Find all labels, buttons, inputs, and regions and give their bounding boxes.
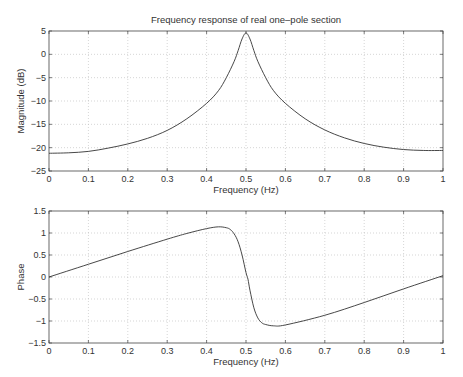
x-axis-label: Frequency (Hz) <box>213 184 278 195</box>
y-tick-label: −1 <box>36 316 46 326</box>
x-tick-label: 0.4 <box>200 174 213 184</box>
x-tick-label: 0.5 <box>240 346 253 356</box>
magnitude-curve <box>49 33 443 153</box>
x-tick-label: 1 <box>440 346 445 356</box>
x-tick-label: 0.2 <box>122 174 135 184</box>
y-tick-label: −25 <box>31 166 46 176</box>
x-tick-label: 0.6 <box>279 174 292 184</box>
y-tick-label: 1 <box>41 228 46 238</box>
y-tick-label: −5 <box>36 73 46 83</box>
chart-title: Frequency response of real one–pole sect… <box>151 14 341 25</box>
y-tick-label: 0.5 <box>33 250 46 260</box>
x-tick-label: 0.6 <box>279 346 292 356</box>
y-tick-label: −15 <box>31 119 46 129</box>
x-tick-label: 0.1 <box>82 174 95 184</box>
x-tick-label: 0.7 <box>319 174 332 184</box>
y-tick-label: −0.5 <box>28 294 46 304</box>
y-tick-label: 5 <box>41 26 46 36</box>
x-tick-label: 0.3 <box>161 346 174 356</box>
x-tick-label: 0.7 <box>319 346 332 356</box>
x-tick-label: 0.5 <box>240 174 253 184</box>
x-tick-label: 1 <box>440 174 445 184</box>
phase-plot: 00.10.20.30.40.50.60.70.80.911.510.50−0.… <box>15 206 446 367</box>
y-tick-label: 0 <box>41 49 46 59</box>
y-axis-label: Phase <box>15 264 26 291</box>
x-tick-label: 0.2 <box>122 346 135 356</box>
magnitude-plot: 00.10.20.30.40.50.60.70.80.9150−5−10−15−… <box>15 14 446 195</box>
x-tick-label: 0.1 <box>82 346 95 356</box>
y-tick-label: 1.5 <box>33 206 46 216</box>
y-tick-label: −20 <box>31 143 46 153</box>
x-tick-label: 0.9 <box>397 174 410 184</box>
x-tick-label: 0.8 <box>358 346 371 356</box>
x-tick-label: 0.9 <box>397 346 410 356</box>
x-tick-label: 0 <box>46 346 51 356</box>
x-tick-label: 0.3 <box>161 174 174 184</box>
x-tick-label: 0.8 <box>358 174 371 184</box>
y-axis-label: Magnitude (dB) <box>15 69 26 134</box>
x-tick-label: 0 <box>46 174 51 184</box>
figure: 00.10.20.30.40.50.60.70.80.9150−5−10−15−… <box>0 0 463 377</box>
y-tick-label: −1.5 <box>28 338 46 348</box>
x-axis-label: Frequency (Hz) <box>213 356 278 367</box>
x-tick-label: 0.4 <box>200 346 213 356</box>
y-tick-label: −10 <box>31 96 46 106</box>
y-tick-label: 0 <box>41 272 46 282</box>
